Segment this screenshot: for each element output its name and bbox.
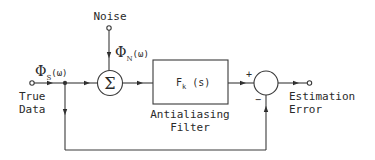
noise-terminal — [107, 26, 111, 30]
noise-label: Noise — [88, 10, 132, 23]
true-data-label-line2: Data — [19, 103, 46, 116]
filter-label-line1: Antialiasing — [140, 108, 240, 121]
comparator-junction — [254, 71, 278, 95]
input-terminal — [30, 81, 34, 85]
true-data-label-line1: True — [19, 90, 46, 103]
noise-phi-arg: (ω) — [133, 49, 149, 59]
minus-sign: − — [255, 93, 261, 106]
signal-phi-symbol: Φ — [35, 63, 46, 79]
filter-transfer-function: Fk (s) — [176, 76, 210, 94]
noise-phi-symbol: Φ — [115, 44, 126, 60]
output-terminal — [307, 81, 311, 85]
filter-subscript: k — [182, 83, 186, 91]
filter-label-line2: Filter — [140, 121, 240, 134]
noise-spectrum-label: ΦN(ω) — [115, 44, 149, 63]
estimation-error-label-line2: Error — [289, 103, 322, 116]
signal-phi-arg: (ω) — [51, 68, 67, 78]
plus-sign: + — [246, 68, 252, 81]
estimation-error-label-line1: Estimation — [289, 90, 355, 103]
signal-spectrum-label: ΦS(ω) — [35, 63, 68, 82]
filter-arg: (s) — [192, 77, 210, 88]
summing-symbol: Σ — [104, 74, 115, 93]
